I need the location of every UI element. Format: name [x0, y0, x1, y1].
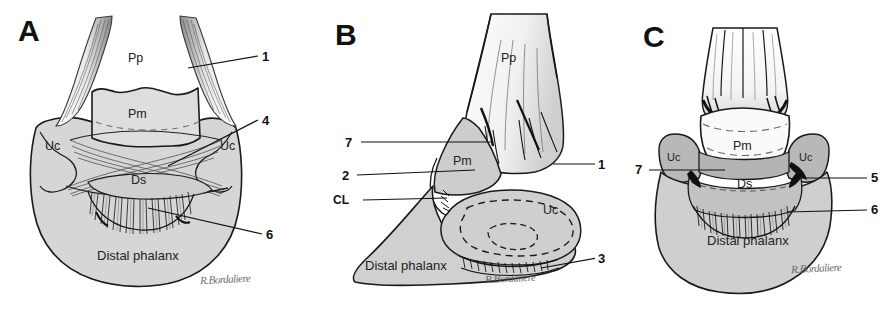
panel-b-annotation-2: 2	[342, 169, 349, 182]
panel-b-letter: B	[335, 20, 357, 50]
panel-a-letter: A	[18, 16, 40, 46]
panel-c-annotation-5: 5	[871, 171, 878, 184]
panel-a: A Pp Pm Uc Uc Ds Distal phalanx 1 4 6 R.…	[0, 0, 300, 311]
panel-c-label-distal-phalanx: Distal phalanx	[707, 234, 789, 247]
panel-a-drawing	[0, 0, 300, 311]
panel-c-label-pm: Pm	[733, 140, 752, 153]
panel-b-label-distal-phalanx: Distal phalanx	[365, 259, 447, 272]
panel-a-annotation-6: 6	[266, 228, 273, 241]
panel-c-letter: C	[643, 22, 665, 52]
panel-b-annotation-7: 7	[345, 136, 352, 149]
panel-b-label-uc: Uc	[543, 204, 558, 217]
panel-c-label-uc-right: Uc	[799, 152, 812, 163]
panel-c-drawing	[595, 0, 893, 311]
panel-a-label-pm: Pm	[128, 108, 147, 121]
panel-b-label-pm: Pm	[453, 155, 472, 168]
panel-b-annotation-cl: CL	[333, 194, 349, 206]
panel-a-label-pp: Pp	[128, 52, 143, 65]
panel-c-label-uc-left: Uc	[667, 152, 680, 163]
panel-c-label-ds: Ds	[737, 178, 752, 191]
panel-a-label-ds: Ds	[131, 174, 146, 187]
panel-a-annotation-4: 4	[262, 114, 269, 127]
panel-a-label-uc-right: Uc	[220, 140, 235, 153]
panel-a-annotation-1: 1	[262, 50, 269, 63]
panel-b-annotation-3: 3	[598, 252, 605, 265]
panel-a-label-distal-phalanx: Distal phalanx	[97, 249, 179, 262]
anatomical-figure: A Pp Pm Uc Uc Ds Distal phalanx 1 4 6 R.…	[0, 0, 893, 311]
panel-a-label-uc-left: Uc	[45, 140, 60, 153]
leader-line-cl	[363, 198, 447, 200]
panel-c-annotation-6: 6	[871, 203, 878, 216]
panel-b-annotation-1: 1	[598, 158, 605, 171]
panel-c-annotation-7: 7	[635, 163, 642, 176]
panel-c: C Uc Pm Uc Ds Distal phalanx 7 5 6 R.Bor…	[595, 0, 893, 311]
panel-b-label-pp: Pp	[501, 52, 516, 65]
panel-b: B Pp Pm Uc Distal phalanx 7 2 CL R.Borda…	[295, 0, 595, 311]
